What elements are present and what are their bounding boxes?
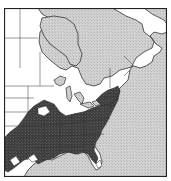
range-map	[4, 8, 167, 177]
